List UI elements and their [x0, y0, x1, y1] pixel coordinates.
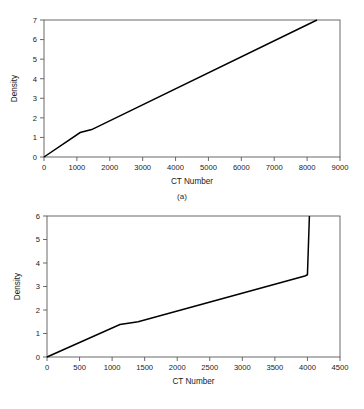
chart-a-caption: (a) — [0, 192, 364, 201]
y-tick-label: 4 — [33, 75, 37, 84]
chart-panel-a: 0100020003000400050006000700080009000012… — [0, 0, 364, 205]
x-tick-label: 4500 — [332, 363, 349, 372]
x-tick-label: 500 — [73, 363, 86, 372]
x-tick-label: 2500 — [201, 363, 218, 372]
y-tick-label: 7 — [33, 16, 37, 25]
x-axis-title: CT Number — [171, 177, 213, 186]
x-tick-label: 2000 — [169, 363, 186, 372]
x-tick-label: 9000 — [332, 163, 349, 172]
x-tick-label: 2000 — [101, 163, 118, 172]
chart-panel-b: 0500100015002000250030003500400045000123… — [0, 205, 364, 409]
x-tick-label: 7000 — [266, 163, 283, 172]
x-tick-label: 1000 — [104, 363, 121, 372]
chart-a-plot: 0100020003000400050006000700080009000012… — [0, 0, 364, 205]
y-tick-label: 6 — [36, 212, 40, 221]
y-tick-label: 4 — [36, 259, 40, 268]
x-tick-label: 1000 — [68, 163, 85, 172]
x-tick-label: 6000 — [233, 163, 250, 172]
x-tick-label: 3500 — [266, 363, 283, 372]
x-tick-label: 1500 — [136, 363, 153, 372]
x-tick-label: 4000 — [299, 363, 316, 372]
plot-frame — [44, 20, 340, 157]
y-tick-label: 3 — [36, 282, 40, 291]
data-series-line — [47, 216, 309, 357]
plot-frame — [47, 216, 340, 357]
y-tick-label: 2 — [33, 114, 37, 123]
y-tick-label: 1 — [36, 329, 40, 338]
x-tick-label: 3000 — [134, 163, 151, 172]
y-tick-label: 1 — [33, 133, 37, 142]
x-tick-label: 3000 — [234, 363, 251, 372]
y-tick-label: 3 — [33, 94, 37, 103]
x-tick-label: 8000 — [299, 163, 316, 172]
y-tick-label: 5 — [36, 235, 40, 244]
x-tick-label: 0 — [42, 163, 46, 172]
x-tick-label: 0 — [45, 363, 49, 372]
data-series-line — [44, 20, 317, 157]
x-axis-title: CT Number — [172, 377, 214, 386]
y-axis-title: Density — [13, 272, 22, 300]
y-axis-title: Density — [10, 74, 19, 102]
figure-container: 0100020003000400050006000700080009000012… — [0, 0, 364, 409]
x-tick-label: 5000 — [200, 163, 217, 172]
y-tick-label: 6 — [33, 35, 37, 44]
y-tick-label: 0 — [33, 153, 37, 162]
x-tick-label: 4000 — [167, 163, 184, 172]
y-tick-label: 0 — [36, 353, 40, 362]
y-tick-label: 2 — [36, 306, 40, 315]
y-tick-label: 5 — [33, 55, 37, 64]
chart-b-plot: 0500100015002000250030003500400045000123… — [0, 205, 364, 409]
